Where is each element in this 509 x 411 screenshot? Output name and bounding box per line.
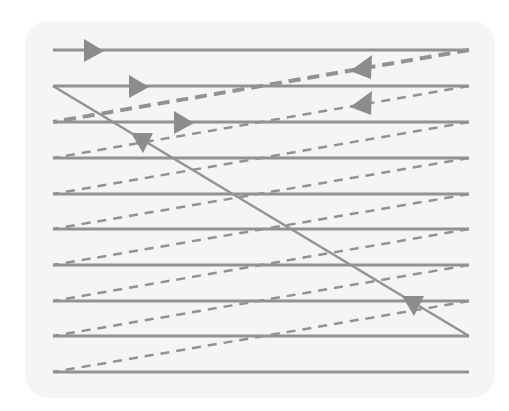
- raster-scan-diagram: [0, 0, 509, 411]
- diagram-stage: [0, 0, 509, 411]
- retrace-arrow-2-icon: [350, 91, 372, 115]
- scan-direction-arrow-1-icon: [84, 39, 104, 62]
- scan-direction-arrow-3-icon: [174, 111, 194, 134]
- direction-arrows: [84, 39, 424, 316]
- retrace-arrow-1-icon: [350, 55, 372, 79]
- scan-direction-arrow-2-icon: [129, 75, 149, 98]
